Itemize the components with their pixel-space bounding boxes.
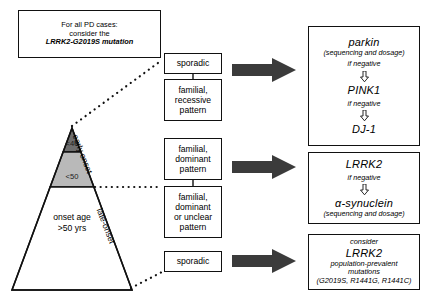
- note-line-3: LRRK2-G2019S mutation: [46, 38, 133, 47]
- connector-base-to-sporadic-late: [131, 272, 162, 288]
- box-familial-dominant-unclear: familial, dominant or unclear pattern: [164, 186, 222, 238]
- box-label: sporadic: [177, 256, 209, 266]
- box-label-line-2: recessive: [175, 95, 211, 105]
- box-label: sporadic: [177, 58, 209, 68]
- panel-late-onset-lrrk2: consider LRRK2 population-prevalent muta…: [308, 234, 420, 290]
- gene-lrrk2: LRRK2: [346, 247, 382, 260]
- right-arrow-icon: [232, 58, 296, 82]
- gene-parkin: parkin: [348, 36, 379, 49]
- down-arrow-icon: [360, 184, 369, 195]
- onset-age-line-2: >50 yrs: [58, 223, 86, 233]
- figure-canvas: For all PD cases: consider the LRRK2-G20…: [0, 0, 426, 297]
- condition-if-negative-1: if negative: [348, 60, 381, 68]
- box-label-line-1: familial,: [178, 85, 207, 95]
- gene-alpha-synuclein-method: (sequencing and dosage): [323, 210, 404, 218]
- connector-apex-to-sporadic-early: [72, 60, 162, 126]
- onset-age-line-1: onset age: [53, 212, 91, 222]
- down-arrow-icon: [360, 110, 369, 121]
- gene-lrrk2: LRRK2: [346, 158, 382, 171]
- box-label-line-1: familial,: [178, 192, 207, 202]
- onset-age-triangle: [12, 128, 132, 290]
- mutation-list: (G2019S, R1441G, R1441C): [317, 277, 412, 286]
- gene-dj1: DJ-1: [352, 123, 376, 136]
- condition-if-negative-2: if negative: [348, 100, 381, 108]
- right-arrow-icon: [232, 249, 296, 273]
- box-sporadic-late: sporadic: [164, 251, 222, 272]
- condition-if-negative-1: if negative: [348, 174, 381, 182]
- box-label-line-3: pattern: [180, 105, 207, 115]
- box-familial-recessive: familial, recessive pattern: [164, 79, 222, 121]
- gene-parkin-method: (sequencing and dosage): [323, 49, 404, 57]
- consider-label: consider: [350, 238, 378, 247]
- panel-dominant-genes: LRRK2 if negative α-synuclein (sequencin…: [308, 152, 420, 224]
- box-label-line-1: familial,: [178, 144, 207, 154]
- gene-pink1: PINK1: [348, 84, 381, 97]
- box-label-line-3: pattern: [180, 164, 207, 174]
- panel-recessive-genes: parkin (sequencing and dosage) if negati…: [308, 26, 420, 146]
- box-label-line-2: dominant: [175, 202, 210, 212]
- box-label-line-2: dominant: [175, 154, 210, 164]
- right-arrow-icon: [232, 155, 296, 179]
- down-arrow-icon: [360, 71, 369, 82]
- early-onset-label: early onset: [71, 133, 95, 175]
- pd-cases-note-box: For all PD cases: consider the LRRK2-G20…: [18, 10, 161, 58]
- box-familial-dominant: familial, dominant pattern: [164, 138, 222, 180]
- box-label-line-4: pattern: [180, 222, 207, 232]
- box-label-line-3: or unclear: [174, 212, 212, 222]
- box-sporadic-early: sporadic: [164, 53, 222, 74]
- triangle-band-label-under50: <50: [59, 172, 85, 181]
